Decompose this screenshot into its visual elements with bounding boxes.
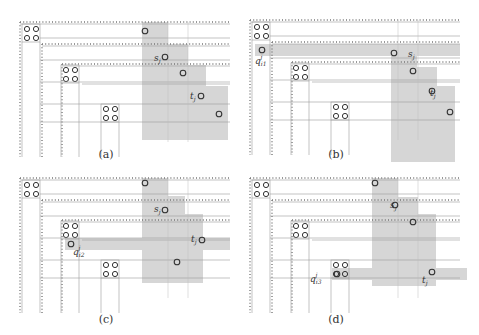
caption-c: (c) <box>86 313 126 326</box>
caption-a: (a) <box>86 148 126 161</box>
label-q: qi3j <box>310 271 322 285</box>
gray-row-band <box>255 44 460 56</box>
panel-c-drawing: sjtjqi2j <box>20 178 235 303</box>
panel-c: sjtjqi2j <box>20 178 235 303</box>
panel-b: sjtjqi1j <box>250 20 465 145</box>
panel-d-drawing: sjtjqi3j <box>250 178 465 303</box>
panel-a: sjtj <box>20 22 235 147</box>
gray-region <box>142 22 168 140</box>
panel-a-drawing: sjtj <box>20 22 235 147</box>
panel-d: sjtjqi3j <box>250 178 465 303</box>
caption-b: (b) <box>316 148 356 161</box>
panel-b-drawing: sjtjqi1j <box>250 20 465 145</box>
gray-region <box>417 67 437 162</box>
gray-region <box>168 44 188 140</box>
gray-region <box>206 86 228 140</box>
gray-region <box>437 86 455 162</box>
gray-region <box>188 65 206 140</box>
caption-d: (d) <box>316 313 356 326</box>
